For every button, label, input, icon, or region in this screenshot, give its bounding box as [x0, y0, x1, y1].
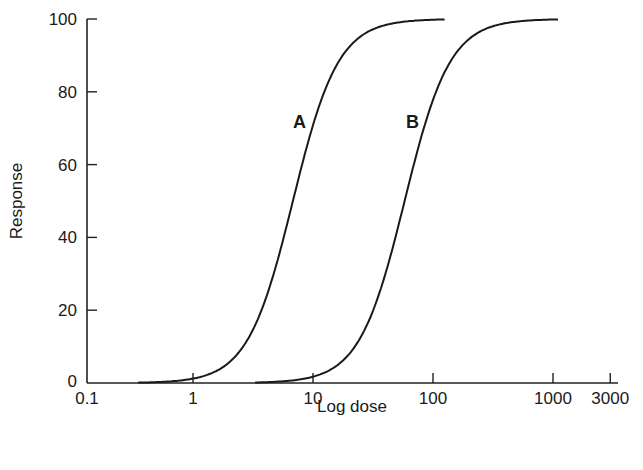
- svg-text:20: 20: [58, 301, 77, 320]
- svg-text:1000: 1000: [534, 389, 572, 408]
- svg-text:1: 1: [188, 389, 197, 408]
- y-axis-title: Response: [7, 163, 26, 240]
- svg-text:100: 100: [419, 389, 447, 408]
- svg-text:0.1: 0.1: [75, 389, 99, 408]
- curve-a-label: A: [293, 112, 306, 132]
- dose-response-chart: 020406080100 0.111010010003000 A B Log d…: [0, 0, 643, 470]
- curve-b-label: B: [406, 112, 419, 132]
- x-axis-title: Log dose: [317, 397, 387, 416]
- y-ticks: 020406080100: [49, 10, 97, 391]
- svg-text:3000: 3000: [591, 389, 629, 408]
- svg-text:80: 80: [58, 83, 77, 102]
- curve-b: [255, 19, 558, 382]
- svg-text:40: 40: [58, 228, 77, 247]
- svg-text:100: 100: [49, 10, 77, 29]
- curve-a: [138, 19, 444, 382]
- svg-text:60: 60: [58, 156, 77, 175]
